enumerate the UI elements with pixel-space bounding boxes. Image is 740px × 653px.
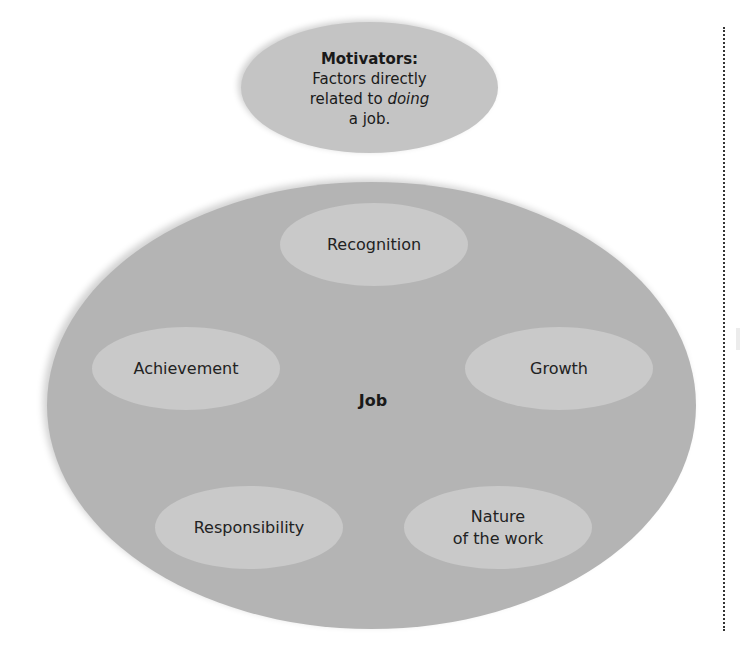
factor-label-line1: Nature xyxy=(471,506,525,528)
factor-label: Recognition xyxy=(327,234,421,256)
factor-achievement: Achievement xyxy=(92,327,280,410)
factor-label: Responsibility xyxy=(194,517,305,539)
motivators-title: Motivators: xyxy=(321,49,418,69)
motivators-desc-line3: a job. xyxy=(295,109,445,129)
dotted-divider xyxy=(723,27,725,631)
motivators-desc-emphasis: doing xyxy=(387,90,429,108)
motivators-desc-line1: Factors directly xyxy=(295,69,445,89)
motivators-desc-prefix: related to xyxy=(310,90,388,108)
motivators-bubble: Motivators: Factors directly related to … xyxy=(241,22,498,153)
edge-fragment xyxy=(736,328,740,350)
motivators-description: Factors directly related to doing a job. xyxy=(295,69,445,129)
factor-label-line2: of the work xyxy=(453,528,544,550)
factor-growth: Growth xyxy=(465,327,653,410)
factor-responsibility: Responsibility xyxy=(155,486,343,569)
factor-recognition: Recognition xyxy=(280,203,468,286)
factor-label: Growth xyxy=(530,358,588,380)
factor-label: Achievement xyxy=(133,358,238,380)
job-label: Job xyxy=(340,391,406,410)
factor-nature-of-work: Nature of the work xyxy=(404,486,592,569)
motivators-desc-line2: related to doing xyxy=(295,89,445,109)
